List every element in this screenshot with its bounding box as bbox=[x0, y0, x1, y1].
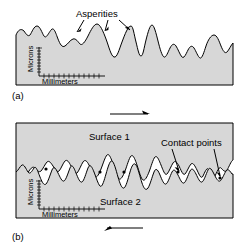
panel-a-caption: (a) bbox=[12, 90, 24, 101]
asperities-label: Asperities bbox=[76, 8, 118, 19]
contact-point-marker bbox=[98, 170, 101, 173]
surface-2-label: Surface 2 bbox=[100, 196, 141, 207]
panel-b-caption: (b) bbox=[12, 231, 24, 242]
panel-b-y-axis-label: Microns bbox=[26, 178, 35, 205]
contact-point-marker bbox=[122, 170, 125, 173]
figure-canvas: Microns Millimeters Asperities (a) bbox=[0, 0, 248, 252]
contact-points-label: Contact points bbox=[161, 137, 222, 148]
panel-b-x-axis-label: Millimeters bbox=[42, 210, 78, 219]
contact-point-marker bbox=[44, 167, 47, 170]
roughness-contact-figure: Microns Millimeters Asperities (a) bbox=[0, 0, 248, 252]
panel-a-x-axis-label: Millimeters bbox=[42, 77, 78, 86]
panel-a-y-axis-label: Microns bbox=[26, 45, 35, 72]
contact-point-marker bbox=[218, 176, 221, 179]
surface-1-label: Surface 1 bbox=[89, 131, 130, 142]
